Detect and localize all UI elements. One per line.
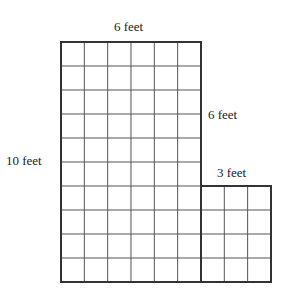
grid-figure bbox=[0, 0, 285, 295]
step-width-label: 3 feet bbox=[217, 166, 246, 179]
left-height-label: 10 feet bbox=[6, 154, 42, 167]
right-height-label: 6 feet bbox=[208, 108, 237, 121]
top-width-label: 6 feet bbox=[114, 20, 143, 33]
